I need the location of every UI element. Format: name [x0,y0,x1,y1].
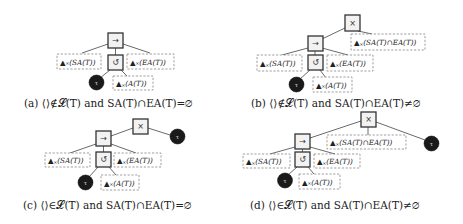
start-activities-label: ▲×(SA(T)) [260,59,296,68]
end-activities-label: ▲×(EA(T)) [330,59,366,68]
edge [322,28,345,39]
start-activities-label: ▲×(SA(T)) [48,156,84,165]
edge [308,167,314,174]
activities-label: ▲×(A(T)) [302,177,333,186]
start-activities-label: ▲×(SA(T)) [60,57,96,66]
edge [123,44,150,53]
sequence-icon: → [112,36,119,45]
xor-icon: × [365,115,372,124]
activities-label: ▲×(A(T)) [316,80,347,89]
panel-c: × τ → ▲×(SA(T)) ↺ ▲×(EA(T)) τ ▲×(A(T)) (… [23,119,191,211]
loop-icon: ↺ [299,155,306,164]
sequence-icon: → [100,134,107,143]
activities-label: ▲×(A(T)) [104,178,135,187]
end-activities-label: ▲×(EA(T)) [317,157,353,166]
panel-d: × ▲×(SA(T)∩EA(T)) τ → ▲×(SA(T)) ↺ ▲×(EA(… [243,112,439,211]
end-activities-label: ▲×(EA(T)) [130,57,166,66]
edge [270,147,295,154]
xor-icon: × [349,19,356,28]
caption-c: (c) ⟨⟩∈𝓛(T) and SA(T)∩EA(T)=∅ [23,199,191,211]
caption-a: (a) ⟨⟩∉𝓛(T) and SA(T)∩EA(T)=∅ [24,97,192,109]
edge [70,144,96,153]
end-activities-label: ▲×(EA(T)) [117,156,153,165]
activities-label: ▲×(A(T)) [116,79,147,88]
edge [82,44,108,53]
start-end-intersection-label: ▲×(SA(T)∩EA(T)) [330,138,392,147]
edge [109,167,116,175]
edge [111,144,136,153]
process-tree-figure: → ▲×(SA(T)) ↺ ▲×(EA(T)) τ ▲×(A(T)) (a) ⟨… [0,0,463,224]
sequence-icon: → [312,39,319,48]
loop-icon: ↺ [112,58,119,67]
xor-icon: × [137,122,144,131]
panel-a: → ▲×(SA(T)) ↺ ▲×(EA(T)) τ ▲×(A(T)) (a) ⟨… [24,33,192,109]
sequence-icon: → [299,137,306,146]
edge [89,167,98,177]
start-activities-label: ▲×(SA(T)) [246,157,282,166]
caption-d: (d) ⟨⟩∈𝓛(T) and SA(T)∩EA(T)≠∅ [250,199,419,211]
edge [282,48,308,55]
start-end-intersection-label: ▲×(SA(T)∩EA(T)) [354,38,416,47]
edge [148,128,170,135]
loop-icon: ↺ [100,155,107,164]
loop-icon: ↺ [312,58,319,67]
caption-b: (b) ⟨⟩∉𝓛(T) and SA(T)∩EA(T)≠∅ [251,97,420,109]
panel-b: × ▲×(SA(T)∩EA(T)) → ▲×(SA(T)) ↺ ▲×(EA(T)… [251,15,425,109]
edge [322,48,348,55]
edge [111,128,133,136]
